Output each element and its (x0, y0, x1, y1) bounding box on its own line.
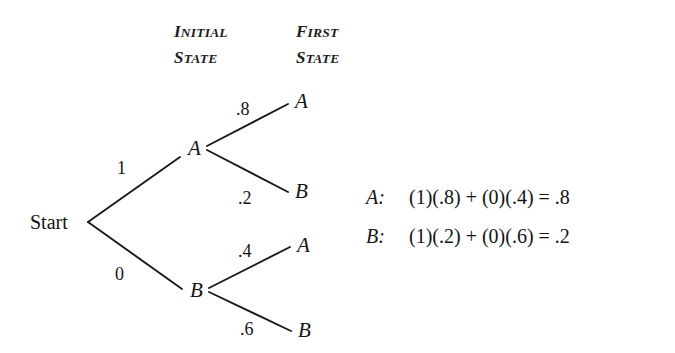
edge-label-start-to-A: 1 (117, 159, 126, 177)
equation-expression-A: (1)(.8) + (0)(.4) = .8 (409, 186, 570, 209)
node-first-B-from-A: B (295, 181, 308, 202)
first-state-line-2: STATE (296, 49, 339, 66)
edge-label-A-to-B: .2 (238, 189, 252, 207)
node-initial-B: B (190, 280, 203, 301)
edge-label-start-to-B: 0 (115, 265, 124, 283)
edge-label-B-to-A: .4 (238, 242, 252, 260)
node-first-B-from-B: B (298, 320, 311, 341)
node-first-A-from-B: A (297, 235, 310, 256)
first-state-line-1: FIRST (296, 23, 339, 40)
edge-label-A-to-A: .8 (236, 100, 250, 118)
initial-state-line-1: INITIAL (174, 23, 228, 40)
edge-start-to-A (88, 157, 180, 222)
edge-A-to-B (207, 150, 288, 192)
equation-expression-B: (1)(.2) + (0)(.6) = .2 (409, 225, 570, 248)
edge-start-to-B (88, 222, 182, 289)
equation-key-A: A: (366, 186, 385, 208)
equation-row-A: A: (366, 186, 385, 209)
equation-key-B: B: (366, 225, 385, 247)
edge-label-B-to-B: .6 (240, 320, 254, 338)
equation-row-B: B: (366, 225, 385, 248)
probability-tree-figure: INITIAL STATE FIRST STATE Start A B A B … (0, 0, 675, 353)
node-start: Start (30, 212, 68, 232)
column-header-initial-state: INITIAL STATE (174, 23, 228, 75)
initial-state-line-2: STATE (174, 49, 228, 66)
node-initial-A: A (188, 138, 201, 159)
node-first-A-from-A: A (295, 91, 308, 112)
column-header-first-state: FIRST STATE (296, 23, 339, 75)
